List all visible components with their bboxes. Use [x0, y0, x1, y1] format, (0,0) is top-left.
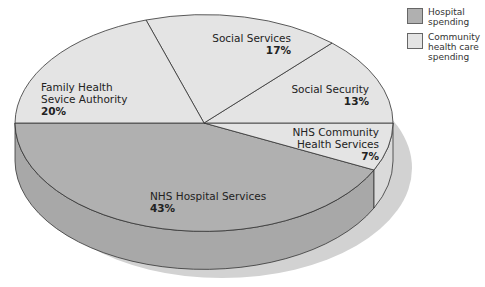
label-fhsa-pct: 20% — [41, 105, 127, 117]
label-social-services-pct: 17% — [196, 44, 291, 56]
label-fhsa-line1: Family Health — [41, 81, 127, 93]
legend-swatch-hospital — [407, 8, 423, 24]
legend-label-hospital: Hospital spending — [428, 7, 485, 27]
label-nhs-community-line1: NHS Community — [284, 126, 379, 138]
label-social-services-line1: Social Services — [196, 32, 291, 44]
legend-swatch-community — [407, 33, 423, 49]
label-nhs-community-pct: 7% — [284, 150, 379, 162]
label-fhsa: Family Health Sevice Authority 20% — [41, 81, 127, 117]
label-social-security-pct: 13% — [285, 95, 369, 107]
label-social-services: Social Services 17% — [196, 32, 291, 56]
label-fhsa-line2: Sevice Authority — [41, 93, 127, 105]
legend-label-community: Community health care spending — [428, 32, 485, 62]
label-nhs-hospital: NHS Hospital Services 43% — [150, 190, 266, 214]
label-nhs-hospital-line1: NHS Hospital Services — [150, 190, 266, 202]
label-nhs-community: NHS Community Health Services 7% — [284, 126, 379, 162]
label-nhs-community-line2: Health Services — [284, 138, 379, 150]
label-social-security: Social Security 13% — [285, 83, 369, 107]
label-social-security-line1: Social Security — [285, 83, 369, 95]
label-nhs-hospital-pct: 43% — [150, 202, 266, 214]
